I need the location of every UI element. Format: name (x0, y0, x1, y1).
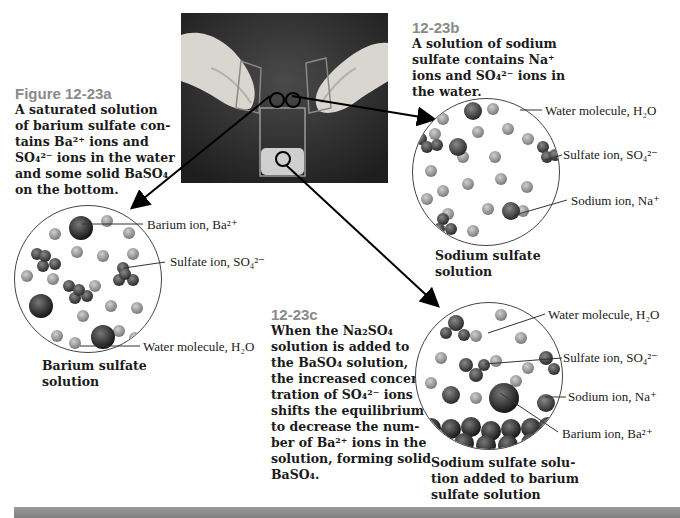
label-barium-ion-c: Barium ion, Ba²⁺ (562, 427, 653, 441)
bottom-divider-band (14, 507, 680, 518)
title-line: tion added to barium (431, 471, 579, 487)
label-sodium-ion-c: Sodium ion, Na⁺ (568, 390, 657, 404)
label-water-molecule-c: Water molecule, H₂O (548, 308, 659, 322)
mixed-solution-title: Sodium sulfate solu- tion added to bariu… (431, 455, 579, 503)
title-line: Sodium sulfate solu- (431, 455, 579, 471)
title-line: sulfate solution (431, 487, 579, 503)
label-sulfate-ion-c: Sulfate ion, SO₄²⁻ (563, 351, 658, 365)
